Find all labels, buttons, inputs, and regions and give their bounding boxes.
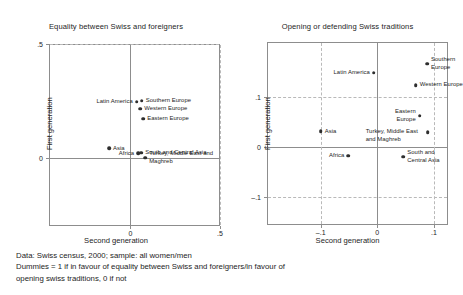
x-tick-label: .1 [431,229,437,236]
gridline-horizontal [50,44,219,45]
data-point-label: Southern Europe [146,97,191,104]
data-point-label: South and Central Asia [407,149,439,164]
x-tick-mark [130,226,131,229]
caption-line-1: Data: Swiss census, 2000; sample: all wo… [16,250,436,261]
data-point [319,129,323,133]
axis-zero-line-vertical [130,45,131,225]
data-point-label: Africa [232,152,344,159]
data-point [135,100,139,104]
data-point-label: Eastern Europe [232,108,416,123]
y-tick-mark [46,158,49,159]
data-point [141,117,145,121]
data-point [138,107,142,111]
data-point-label: Turkey, Middle East and Maghreb [366,128,428,143]
data-point-label: Turkey, Middle East and Maghreb [149,150,213,165]
y-tick-label: .5 [25,41,43,48]
data-point [372,71,376,75]
plot-area-left [49,44,220,226]
caption-line-2: Dummies = 1 if in favour of equality bet… [16,261,436,272]
figure-scatter-pair: Equality between Swiss and foreigners 0.… [0,0,463,295]
panel-title-right: Opening or defending Swiss traditions [232,22,463,31]
y-tick-mark [264,197,267,198]
gridline-horizontal [268,97,447,98]
x-tick-label: –.1 [316,229,326,236]
panel-title-left: Equality between Swiss and foreigners [0,22,232,31]
y-tick-label: 0 [243,144,261,151]
y-axis-title-left: First generation [45,97,54,150]
panel-equality: Equality between Swiss and foreigners 0.… [0,0,232,250]
data-point-label: Latin America [0,98,133,105]
x-axis-title-left: Second generation [0,236,232,245]
data-point [140,99,144,103]
caption-line-3: opening swiss traditions, 0 if not [16,273,436,284]
data-point [425,62,429,66]
data-point-label: Eastern Europe [147,115,189,122]
data-point-label: Western Europe [420,81,463,88]
data-point [414,83,418,87]
gridline-horizontal [268,197,447,198]
data-point [402,155,406,159]
x-tick-mark [377,225,378,228]
data-point-label: Western Europe [144,105,187,112]
panel-traditions: Opening or defending Swiss traditions –.… [232,0,463,250]
data-point [418,114,422,118]
data-point [347,154,351,158]
data-point-label: Southern Europe [431,56,455,71]
y-tick-mark [46,44,49,45]
data-point [139,151,143,155]
x-tick-mark [321,225,322,228]
axis-zero-line-horizontal [268,147,447,148]
y-tick-label: .1 [243,94,261,101]
data-point-label: Latin America [232,69,370,76]
data-point-label: Africa [0,150,134,157]
data-point-label: Asia [325,128,337,135]
x-tick-mark [434,225,435,228]
x-axis-title-right: Second generation [232,236,463,245]
x-tick-label: 0 [375,229,379,236]
y-axis-title-right: First generation [263,97,272,150]
gridline-vertical [220,45,221,225]
y-tick-label: –.1 [243,194,261,201]
x-tick-mark [220,226,221,229]
data-point [143,156,147,160]
figure-caption: Data: Swiss census, 2000; sample: all wo… [16,250,436,284]
